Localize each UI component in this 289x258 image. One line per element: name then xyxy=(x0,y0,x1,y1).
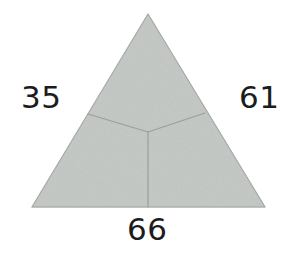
figure-canvas: 35 61 66 xyxy=(0,0,289,258)
right-side-label: 61 xyxy=(239,82,279,113)
bottom-side-label: 66 xyxy=(127,214,167,245)
left-side-label: 35 xyxy=(21,82,61,113)
